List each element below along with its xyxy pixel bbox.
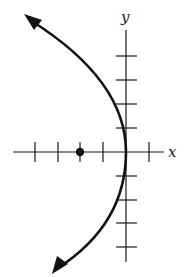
x-axis-label: x [168,143,177,161]
parabola-curve [30,20,126,268]
y-axis-label: y [120,8,130,26]
arrowhead-upper-icon [24,14,42,30]
arrowhead-lower-icon [52,256,68,274]
parabola-diagram: y x [0,0,184,277]
focus-point [76,148,84,156]
